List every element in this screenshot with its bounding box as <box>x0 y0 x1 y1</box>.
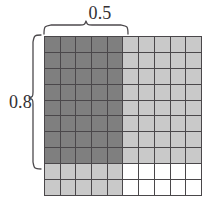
grid-cell <box>155 132 170 147</box>
grid-cell <box>108 101 123 116</box>
grid-cell <box>61 101 76 116</box>
grid-cell <box>186 101 201 116</box>
grid-cell <box>108 69 123 84</box>
grid-cell <box>45 37 60 52</box>
grid-cell <box>76 116 91 131</box>
grid-cell <box>108 85 123 100</box>
grid-cell <box>108 132 123 147</box>
grid-cell <box>123 101 138 116</box>
grid-cell <box>92 53 107 68</box>
grid-cell <box>155 53 170 68</box>
area-model-figure: 0.5 0.8 <box>0 0 212 206</box>
grid-cell <box>45 69 60 84</box>
grid-cell <box>61 69 76 84</box>
grid-cell <box>139 53 154 68</box>
grid-cell <box>92 164 107 179</box>
grid-cell <box>186 37 201 52</box>
left-brace-icon <box>28 33 42 171</box>
grid-cell <box>139 148 154 163</box>
grid-cell <box>76 101 91 116</box>
grid-cell <box>123 37 138 52</box>
grid-cell <box>171 37 186 52</box>
grid-cell <box>171 53 186 68</box>
top-brace-icon <box>42 20 130 35</box>
grid-cell <box>171 116 186 131</box>
grid-cell <box>123 85 138 100</box>
grid-cell <box>123 69 138 84</box>
grid-cell <box>45 53 60 68</box>
grid-cell <box>186 53 201 68</box>
grid-cell <box>139 116 154 131</box>
grid-cell <box>139 101 154 116</box>
hundred-grid <box>44 36 202 196</box>
grid-cell <box>76 148 91 163</box>
grid-cell <box>155 164 170 179</box>
grid-cell <box>123 164 138 179</box>
grid-cell <box>155 101 170 116</box>
grid-cell <box>45 101 60 116</box>
grid-cell <box>155 69 170 84</box>
grid-cell <box>186 148 201 163</box>
grid-cell <box>92 132 107 147</box>
grid-cell <box>92 116 107 131</box>
grid-cell <box>155 85 170 100</box>
grid-cell <box>171 85 186 100</box>
grid-cell <box>108 164 123 179</box>
grid-cell <box>155 148 170 163</box>
grid-cell <box>171 180 186 195</box>
grid-cell <box>155 116 170 131</box>
grid-cell <box>45 132 60 147</box>
grid-cell <box>123 132 138 147</box>
grid-cell <box>171 69 186 84</box>
grid-cell <box>186 180 201 195</box>
grid-cell <box>45 180 60 195</box>
grid-cell <box>186 164 201 179</box>
grid-cell <box>92 69 107 84</box>
grid-cell <box>76 180 91 195</box>
grid-cell <box>108 180 123 195</box>
grid-cell <box>186 116 201 131</box>
grid-cell <box>76 53 91 68</box>
grid-cell <box>123 116 138 131</box>
grid-cell <box>171 148 186 163</box>
grid-cell <box>139 85 154 100</box>
grid-cell <box>61 37 76 52</box>
grid-cell <box>61 164 76 179</box>
grid-cell <box>61 116 76 131</box>
grid-cell <box>76 85 91 100</box>
grid-cell <box>61 148 76 163</box>
grid-cell <box>139 164 154 179</box>
grid-cell <box>123 148 138 163</box>
grid-cell <box>108 148 123 163</box>
grid-cell <box>45 116 60 131</box>
grid-cell <box>92 148 107 163</box>
grid-cell <box>108 116 123 131</box>
grid-cell <box>92 85 107 100</box>
grid-cell <box>186 132 201 147</box>
grid-cell <box>139 132 154 147</box>
grid-cell <box>123 53 138 68</box>
grid-cell <box>76 69 91 84</box>
grid-cell <box>186 69 201 84</box>
grid-cell <box>139 69 154 84</box>
grid-cell <box>108 37 123 52</box>
grid-cell <box>76 164 91 179</box>
grid-cell <box>61 85 76 100</box>
grid-cell <box>92 37 107 52</box>
grid-cell <box>155 37 170 52</box>
grid-cell <box>92 180 107 195</box>
grid-cell <box>139 37 154 52</box>
grid-cell <box>45 164 60 179</box>
grid-cell <box>155 180 170 195</box>
grid-cell <box>76 37 91 52</box>
grid-cell <box>61 53 76 68</box>
grid-cell <box>123 180 138 195</box>
grid-cell <box>171 164 186 179</box>
grid-cell <box>45 148 60 163</box>
grid-cell <box>171 132 186 147</box>
grid-cell <box>139 180 154 195</box>
grid-cell <box>76 132 91 147</box>
grid-cell <box>45 85 60 100</box>
grid-cell <box>61 180 76 195</box>
grid-cell <box>92 101 107 116</box>
